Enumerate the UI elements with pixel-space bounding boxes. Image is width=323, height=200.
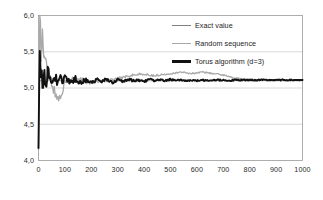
legend-item: Exact value (172, 21, 233, 30)
legend-label: Exact value (195, 21, 233, 30)
x-tick-label: 600 (184, 165, 210, 174)
legend-label: Torus algorithm (d=3) (195, 57, 264, 66)
x-tick-label: 200 (78, 165, 104, 174)
x-tick-label: 800 (237, 165, 263, 174)
y-tick-label: 5,5 (10, 47, 34, 56)
legend-item: Random sequence (172, 39, 256, 48)
x-tick-label: 900 (263, 165, 289, 174)
legend-line-icon (172, 25, 191, 26)
legend-item: Torus algorithm (d=3) (172, 57, 264, 66)
legend-label: Random sequence (195, 39, 256, 48)
y-tick-label: 5,0 (10, 83, 34, 92)
x-tick-label: 400 (131, 165, 157, 174)
x-tick-label: 0 (26, 165, 52, 174)
y-tick-label: 6,0 (10, 11, 34, 20)
x-tick-label: 500 (158, 165, 184, 174)
y-tick-label: 4,5 (10, 120, 34, 129)
legend-line-icon (172, 60, 191, 62)
x-tick-label: 700 (210, 165, 236, 174)
chart-figure: 6,05,55,04,54,0 010020030040050060070080… (0, 0, 323, 200)
x-tick-label: 1000 (290, 165, 316, 174)
x-tick-label: 300 (105, 165, 131, 174)
x-tick-label: 100 (52, 165, 78, 174)
legend-line-icon (172, 43, 191, 44)
